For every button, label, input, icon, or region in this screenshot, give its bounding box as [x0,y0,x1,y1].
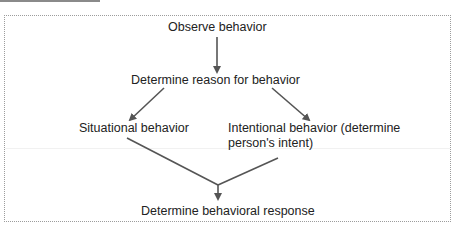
node-intentional-line1: Intentional behavior (determine [228,121,400,136]
node-intentional-behavior: Intentional behavior (determine person's… [228,121,400,151]
node-determine-response: Determine behavioral response [141,204,315,219]
arrow-reason-to-situational [130,88,164,120]
line-situational-to-merge [127,138,218,185]
arrow-reason-to-intentional [272,88,309,120]
node-intentional-line2: person's intent) [228,136,400,151]
line-intentional-to-merge [218,158,278,185]
node-determine-reason: Determine reason for behavior [131,73,300,88]
node-observe-behavior: Observe behavior [168,20,267,35]
node-situational-behavior: Situational behavior [79,121,189,136]
